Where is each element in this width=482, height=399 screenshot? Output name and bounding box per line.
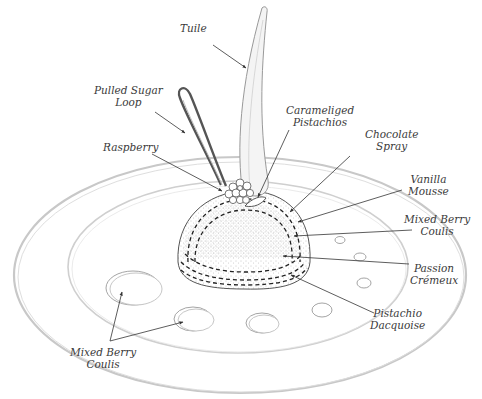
label-line: Crémeux	[410, 274, 458, 286]
label-line: Pulled Sugar	[94, 84, 163, 96]
label-tuile: Tuile	[180, 22, 207, 34]
label-mixed-berry-coulis-left: Mixed Berry Coulis	[70, 346, 136, 370]
label-line: Passion	[410, 262, 458, 274]
label-line: Coulis	[70, 358, 136, 370]
tuile	[240, 7, 268, 196]
label-line: Tuile	[180, 22, 207, 34]
label-line: Carameliged	[286, 104, 354, 116]
label-pistachio-dacquoise: Pistachio Dacquoise	[370, 307, 425, 331]
label-line: Mousse	[408, 185, 449, 197]
label-line: Mixed Berry	[70, 346, 136, 358]
label-raspberry: Raspberry	[103, 141, 158, 153]
dessert-sketch	[0, 0, 482, 399]
label-vanilla-mousse: Vanilla Mousse	[408, 173, 449, 197]
label-mixed-berry-coulis-right: Mixed Berry Coulis	[404, 213, 470, 237]
label-line: Raspberry	[103, 141, 158, 153]
label-line: Chocolate	[365, 128, 418, 140]
label-line: Coulis	[404, 225, 470, 237]
label-line: Spray	[365, 140, 418, 152]
label-line: Pistachios	[286, 116, 354, 128]
raspberry	[225, 179, 254, 204]
label-line: Vanilla	[408, 173, 449, 185]
label-chocolate-spray: Chocolate Spray	[365, 128, 418, 152]
dessert-diagram: Tuile Pulled Sugar Loop Raspberry Carame…	[0, 0, 482, 399]
label-line: Dacquoise	[370, 319, 425, 331]
label-passion-cremeux: Passion Crémeux	[410, 262, 458, 286]
label-line: Loop	[94, 96, 163, 108]
label-pulled-sugar-loop: Pulled Sugar Loop	[94, 84, 163, 108]
label-caramelized-pistachios: Carameliged Pistachios	[286, 104, 354, 128]
label-line: Mixed Berry	[404, 213, 470, 225]
pulled-sugar-loop	[179, 88, 226, 186]
label-line: Pistachio	[370, 307, 425, 319]
dome-dessert	[178, 191, 310, 289]
